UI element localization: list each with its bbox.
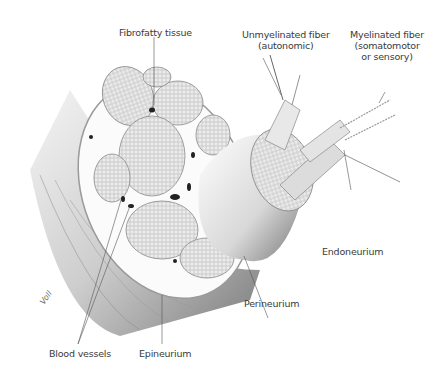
label-blood-vessels: Blood vessels xyxy=(49,348,111,359)
label-line: Myelinated fiber xyxy=(350,29,424,40)
label-endoneurium: Endoneurium xyxy=(322,246,383,257)
label-fibrofatty-tissue: Fibrofatty tissue xyxy=(119,27,192,38)
label-line: (autonomic) xyxy=(242,40,330,51)
label-line: (somatomotor xyxy=(350,40,424,51)
label-myelinated-fiber: Myelinated fiber (somatomotor or sensory… xyxy=(350,29,424,62)
label-unmyelinated-fiber: Unmyelinated fiber (autonomic) xyxy=(242,29,330,51)
artist-signature: Voll xyxy=(38,289,54,307)
label-perineurium: Perineurium xyxy=(244,298,299,309)
label-line: Unmyelinated fiber xyxy=(242,29,330,40)
label-epineurium: Epineurium xyxy=(139,348,191,359)
label-line: or sensory) xyxy=(350,51,424,62)
nerve-diagram: Voll Fibrofatty tissue Unmyelinated fibe… xyxy=(0,0,436,371)
